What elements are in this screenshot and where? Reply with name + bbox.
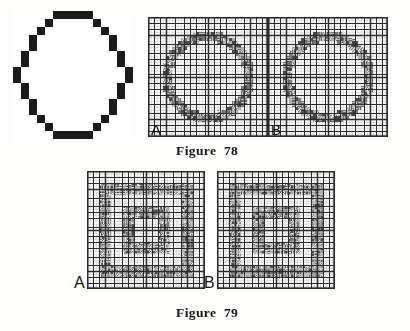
figure-78-caption: Figure 78 — [176, 143, 238, 159]
draft-label-79a: A — [74, 275, 85, 291]
weaving-draft-79a — [87, 171, 205, 289]
weaving-draft-78a-canvas — [148, 17, 268, 137]
weaving-draft-78b-canvas — [268, 17, 388, 137]
draft-label-78b: B — [271, 122, 281, 137]
weaving-draft-78b — [268, 17, 388, 137]
pixelated-circle-canvas — [12, 10, 134, 142]
draft-label-79b: B — [204, 275, 215, 291]
weaving-draft-79b-canvas — [217, 171, 335, 289]
pixelated-circle-figure — [12, 10, 134, 142]
weaving-draft-79b — [217, 171, 335, 289]
book-page: A B A B Figure 78 Figure 79 — [0, 0, 410, 331]
draft-label-78a: A — [151, 122, 161, 137]
weaving-draft-78a — [148, 17, 268, 137]
weaving-draft-79a-canvas — [87, 171, 205, 289]
figure-79-caption: Figure 79 — [176, 305, 238, 321]
